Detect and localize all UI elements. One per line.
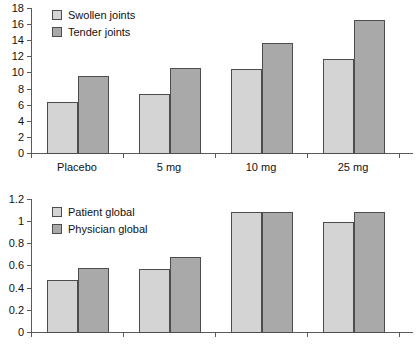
legend-swatch-icon-patient: [52, 207, 62, 217]
global-assessments-bar-chart: 1.2 1 0.8 0.6 0.4 0.2 0 Patient global P…: [0, 180, 419, 359]
bar-tender-10mg: [262, 43, 293, 154]
y-tick-top-7: [27, 40, 31, 41]
legend-top: Swollen joints Tender joints: [52, 8, 135, 42]
y-tick-label-top-8: 16: [0, 19, 24, 30]
bar-swollen-placebo: [47, 102, 78, 154]
x-tick-top-3: [307, 153, 308, 158]
legend-label-swollen: Swollen joints: [68, 10, 135, 21]
y-tick-top-5: [27, 72, 31, 73]
y-axis-line-bottom: [31, 199, 32, 332]
y-tick-bottom-4: [27, 243, 31, 244]
y-tick-label-top-2: 4: [0, 116, 24, 127]
legend-label-tender: Tender joints: [68, 27, 130, 38]
legend-item-patient-global: Patient global: [52, 205, 148, 219]
bar-physician-global-5mg: [170, 257, 201, 333]
y-tick-label-bottom-6: 1.2: [0, 194, 24, 205]
x-axis-label-5mg: 5 mg: [129, 162, 209, 173]
bar-tender-5mg: [170, 68, 201, 154]
y-tick-top-6: [27, 56, 31, 57]
y-tick-label-top-5: 10: [0, 67, 24, 78]
x-tick-bottom-1: [123, 332, 124, 337]
bar-tender-placebo: [78, 76, 109, 154]
y-tick-top-9: [27, 8, 31, 9]
legend-item-tender-joints: Tender joints: [52, 25, 135, 39]
y-tick-label-bottom-5: 1: [0, 216, 24, 227]
legend-item-swollen-joints: Swollen joints: [52, 8, 135, 22]
y-tick-top-8: [27, 24, 31, 25]
bar-swollen-25mg: [323, 59, 354, 154]
x-tick-bottom-0: [31, 332, 32, 337]
x-tick-top-4: [399, 153, 400, 158]
bar-swollen-5mg: [139, 94, 170, 154]
x-tick-top-2: [215, 153, 216, 158]
bar-patient-global-25mg: [323, 222, 354, 333]
y-tick-label-top-7: 14: [0, 35, 24, 46]
y-tick-bottom-5: [27, 221, 31, 222]
x-axis-label-10mg: 10 mg: [221, 162, 301, 173]
joint-counts-bar-chart: 18 16 14 12 10 8 6 4 2 0 Placebo 5 mg 10…: [0, 0, 419, 180]
y-tick-label-bottom-3: 0.6: [0, 260, 24, 271]
legend-swatch-icon-swollen: [52, 10, 62, 20]
legend-bottom: Patient global Physician global: [52, 205, 148, 239]
x-tick-top-1: [123, 153, 124, 158]
bar-tender-25mg: [354, 20, 385, 154]
bar-physician-global-10mg: [262, 212, 293, 333]
legend-label-patient: Patient global: [68, 207, 135, 218]
x-tick-top-0: [31, 153, 32, 158]
legend-label-physician: Physician global: [68, 224, 148, 235]
y-tick-label-bottom-4: 0.8: [0, 238, 24, 249]
bar-swollen-10mg: [231, 69, 262, 154]
legend-swatch-icon-tender: [52, 27, 62, 37]
bar-physician-global-25mg: [354, 212, 385, 333]
bar-physician-global-placebo: [78, 268, 109, 333]
y-tick-label-top-6: 12: [0, 51, 24, 62]
x-axis-label-25mg: 25 mg: [313, 162, 393, 173]
y-tick-top-2: [27, 121, 31, 122]
x-axis-label-placebo: Placebo: [37, 162, 117, 173]
y-tick-label-top-3: 6: [0, 100, 24, 111]
bar-patient-global-10mg: [231, 212, 262, 333]
y-tick-label-top-1: 2: [0, 132, 24, 143]
y-tick-top-1: [27, 137, 31, 138]
x-tick-bottom-3: [307, 332, 308, 337]
y-tick-bottom-2: [27, 288, 31, 289]
y-tick-top-4: [27, 89, 31, 90]
y-tick-label-bottom-2: 0.4: [0, 283, 24, 294]
y-tick-label-top-0: 0: [0, 148, 24, 159]
legend-swatch-icon-physician: [52, 224, 62, 234]
x-tick-bottom-2: [215, 332, 216, 337]
y-tick-label-top-9: 18: [0, 3, 24, 14]
legend-item-physician-global: Physician global: [52, 222, 148, 236]
x-tick-bottom-4: [399, 332, 400, 337]
y-tick-label-top-4: 8: [0, 84, 24, 95]
y-tick-bottom-3: [27, 265, 31, 266]
y-tick-label-bottom-0: 0: [0, 327, 24, 338]
y-axis-line-top: [31, 8, 32, 153]
bar-patient-global-5mg: [139, 269, 170, 333]
y-tick-bottom-6: [27, 199, 31, 200]
y-tick-bottom-1: [27, 310, 31, 311]
bar-patient-global-placebo: [47, 280, 78, 333]
y-tick-top-3: [27, 105, 31, 106]
y-tick-label-bottom-1: 0.2: [0, 305, 24, 316]
